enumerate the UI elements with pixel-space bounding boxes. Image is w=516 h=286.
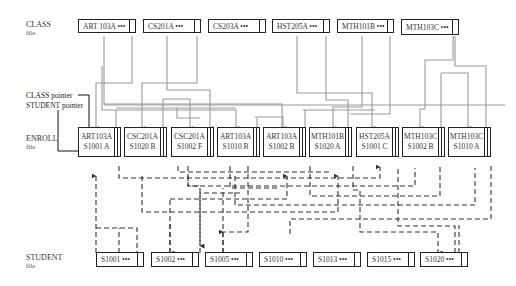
enroll-student-grade: S1002 B xyxy=(407,142,433,152)
student-head-pointer xyxy=(461,253,467,266)
class-head-pointer xyxy=(129,20,135,32)
enrollment-linked-list-diagram: CLASS file CLASS pointer STUDENT pointer… xyxy=(0,0,516,286)
student-pointer-label: STUDENT pointer xyxy=(26,101,83,110)
student-pointer-field xyxy=(348,128,351,156)
class-record: CS201A ••• xyxy=(143,19,201,33)
enroll-student-grade: S1002 F xyxy=(177,142,202,152)
enroll-student-grade: S1010 A xyxy=(453,142,479,152)
class-record-text: CS203A ••• xyxy=(209,22,259,31)
student-record: S1001 ••• xyxy=(96,252,144,267)
enroll-file-title: ENROLL xyxy=(26,134,58,143)
enroll-student-grade: S1020 B xyxy=(129,142,155,152)
enroll-record: HST205AS1001 C xyxy=(356,127,399,157)
student-record: S1002 ••• xyxy=(151,252,199,267)
class-record: ART 103A ••• xyxy=(78,19,136,33)
enroll-student-grade: S1002 B xyxy=(268,142,294,152)
enroll-file-sub: file xyxy=(26,143,58,152)
enroll-student-grade: S1001 C xyxy=(361,142,387,152)
student-record: S1020 ••• xyxy=(420,252,468,267)
student-head-pointer xyxy=(137,253,143,266)
enroll-course: HST205A xyxy=(359,132,390,142)
enroll-course: MTH101B xyxy=(311,132,344,142)
class-record-text: MTH103C ••• xyxy=(402,23,452,32)
class-record: MTH103C ••• xyxy=(401,19,459,35)
enroll-record: ART103AS1010 B xyxy=(217,127,260,157)
enroll-course: ART103A xyxy=(81,132,112,142)
enroll-course: MTH103C xyxy=(450,132,483,142)
student-record-text: S1010 ••• xyxy=(260,255,300,264)
class-pointer-label: CLASS pointer xyxy=(26,91,72,100)
class-file-title: CLASS xyxy=(26,20,51,29)
enroll-student-grade: S1001 A xyxy=(83,142,109,152)
enroll-record: MTH101BS1020 A xyxy=(309,127,352,157)
class-record-text: ART 103A ••• xyxy=(79,22,129,31)
class-record-text: HST205A ••• xyxy=(273,22,323,31)
class-record: MTH101B ••• xyxy=(337,19,394,33)
student-pointer-field xyxy=(441,128,444,156)
class-head-pointer xyxy=(194,20,200,32)
class-file-sub: file xyxy=(26,29,51,38)
enroll-course: MTH103C xyxy=(404,132,437,142)
student-pointer-links xyxy=(96,166,491,253)
enroll-record: MTH103CS1002 B xyxy=(402,127,445,157)
student-record-text: S1005 ••• xyxy=(206,255,246,264)
student-record: S1013 ••• xyxy=(313,252,361,267)
student-file-title: STUDENT xyxy=(26,253,62,262)
student-pointer-field xyxy=(163,128,166,156)
student-record-text: S1020 ••• xyxy=(421,255,461,264)
enroll-course: ART103A xyxy=(266,132,297,142)
enroll-record: CSC201AS1002 F xyxy=(171,127,214,157)
student-pointer-field xyxy=(117,128,120,156)
enroll-file-label: ENROLL file xyxy=(26,134,58,152)
class-record-text: MTH101B ••• xyxy=(338,22,387,31)
student-head-pointer xyxy=(408,253,414,266)
student-record: S1010 ••• xyxy=(259,252,307,267)
student-record: S1015 ••• xyxy=(367,252,415,267)
class-record: HST205A ••• xyxy=(272,19,330,33)
class-pointer-links xyxy=(96,36,505,128)
student-head-pointer xyxy=(354,253,360,266)
student-pointer-field xyxy=(302,128,305,156)
class-head-pointer xyxy=(323,20,329,32)
class-record: CS203A ••• xyxy=(208,19,266,33)
enroll-student-grade: S1010 B xyxy=(222,142,248,152)
class-file-label: CLASS file xyxy=(26,20,51,38)
student-head-pointer xyxy=(300,253,306,266)
student-head-pointer xyxy=(246,253,252,266)
enroll-record: MTH103CS1010 A xyxy=(448,127,491,157)
student-file-label: STUDENT file xyxy=(26,253,62,271)
class-head-pointer xyxy=(452,20,458,34)
enroll-record: ART103AS1001 A xyxy=(78,127,121,157)
class-head-pointer xyxy=(387,20,393,32)
class-head-pointer xyxy=(259,20,265,32)
student-pointer-field xyxy=(256,128,259,156)
student-head-pointer xyxy=(192,253,198,266)
student-record: S1005 ••• xyxy=(205,252,253,267)
student-record-text: S1013 ••• xyxy=(314,255,354,264)
enroll-course: CSC201A xyxy=(127,132,158,142)
student-file-sub: file xyxy=(26,262,62,271)
student-record-text: S1002 ••• xyxy=(152,255,192,264)
student-pointer-field xyxy=(210,128,213,156)
enroll-record: ART103AS1002 B xyxy=(263,127,306,157)
class-record-text: CS201A ••• xyxy=(144,22,194,31)
student-pointer-field xyxy=(487,128,490,156)
enroll-record: CSC201AS1020 B xyxy=(124,127,167,157)
student-record-text: S1015 ••• xyxy=(368,255,408,264)
enroll-course: CSC201A xyxy=(174,132,205,142)
student-pointer-field xyxy=(395,128,398,156)
student-record-text: S1001 ••• xyxy=(97,255,137,264)
enroll-student-grade: S1020 A xyxy=(314,142,340,152)
enroll-course: ART103A xyxy=(220,132,251,142)
